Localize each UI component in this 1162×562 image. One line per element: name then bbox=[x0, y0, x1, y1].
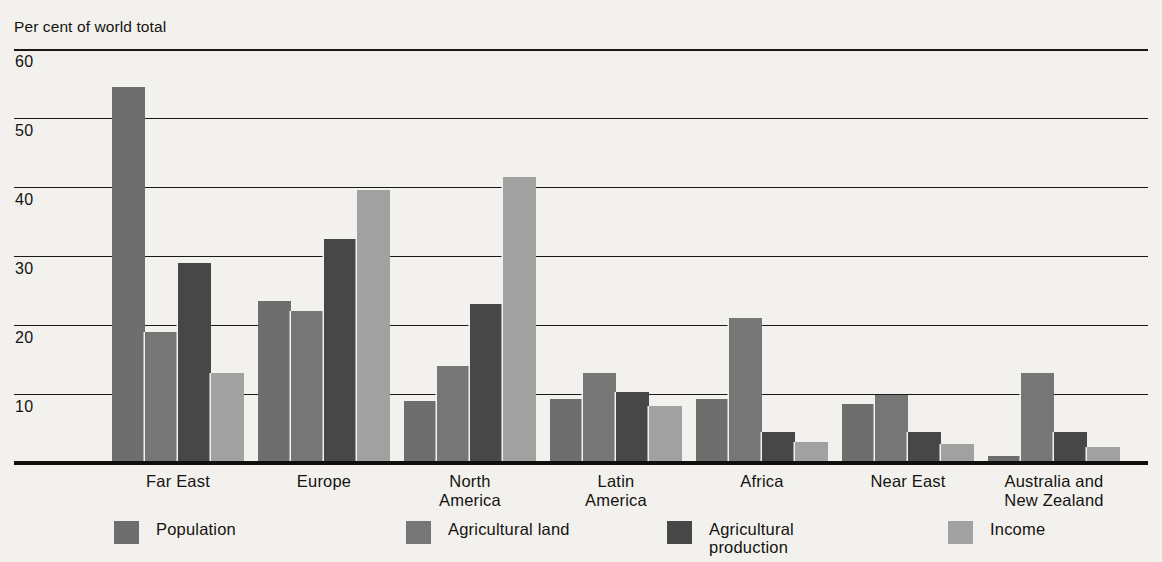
bar bbox=[1021, 373, 1054, 463]
category-label: Africa bbox=[682, 472, 842, 491]
bar bbox=[649, 406, 682, 463]
bar bbox=[795, 442, 828, 463]
income-swatch bbox=[948, 521, 973, 544]
category-label: Australia and New Zealand bbox=[974, 472, 1134, 510]
bar bbox=[404, 401, 437, 463]
legend-label: Agricultural production bbox=[709, 520, 794, 556]
legend-item[interactable]: Income bbox=[948, 520, 1045, 544]
bar bbox=[550, 399, 583, 463]
chart-axis-title: Per cent of world total bbox=[14, 18, 166, 36]
bar bbox=[470, 304, 503, 463]
legend-item[interactable]: Agricultural land bbox=[406, 520, 570, 544]
bar bbox=[145, 332, 178, 463]
bar-group bbox=[696, 49, 828, 463]
bars-layer bbox=[14, 49, 1148, 463]
legend-label: Agricultural land bbox=[448, 520, 570, 538]
category-axis-labels: Far EastEuropeNorth AmericaLatin America… bbox=[0, 472, 1162, 518]
category-label: Near East bbox=[828, 472, 988, 491]
bar bbox=[1054, 432, 1087, 463]
bar-group bbox=[112, 49, 244, 463]
bar bbox=[178, 263, 211, 463]
bar-group bbox=[842, 49, 974, 463]
bar bbox=[729, 318, 762, 463]
bar bbox=[908, 432, 941, 463]
bar bbox=[357, 190, 390, 463]
category-label: Far East bbox=[98, 472, 258, 491]
category-label: North America bbox=[390, 472, 550, 510]
category-label: Latin America bbox=[536, 472, 696, 510]
population-swatch bbox=[114, 521, 139, 544]
bar bbox=[324, 239, 357, 463]
bar bbox=[875, 395, 908, 463]
bar bbox=[842, 404, 875, 463]
legend-item[interactable]: Population bbox=[114, 520, 236, 544]
bar bbox=[503, 177, 536, 463]
bar bbox=[112, 87, 145, 463]
bar-group bbox=[404, 49, 536, 463]
bar bbox=[696, 399, 729, 463]
bar bbox=[583, 373, 616, 463]
bar bbox=[291, 311, 324, 463]
bar-group bbox=[988, 49, 1120, 463]
x-axis-line bbox=[14, 461, 1148, 465]
agricultural-land-swatch bbox=[406, 521, 431, 544]
bar bbox=[258, 301, 291, 463]
legend-label: Income bbox=[990, 520, 1045, 538]
bar-chart: Per cent of world total 605040302010 Far… bbox=[0, 0, 1162, 562]
chart-legend: PopulationAgricultural landAgricultural … bbox=[0, 520, 1162, 562]
category-label: Europe bbox=[244, 472, 404, 491]
agricultural-production-swatch bbox=[667, 521, 692, 544]
bar-group bbox=[258, 49, 390, 463]
bar bbox=[211, 373, 244, 463]
bar bbox=[616, 392, 649, 463]
bar bbox=[762, 432, 795, 463]
legend-label: Population bbox=[156, 520, 236, 538]
legend-item[interactable]: Agricultural production bbox=[667, 520, 794, 556]
bar bbox=[437, 366, 470, 463]
bar-group bbox=[550, 49, 682, 463]
